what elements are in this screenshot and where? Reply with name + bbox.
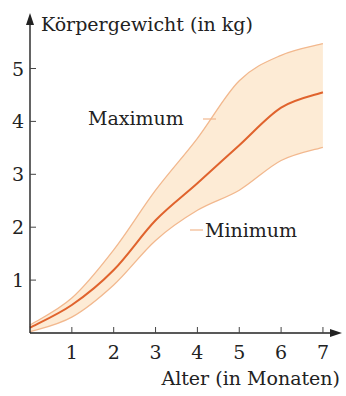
weight-chart: 123456712345 Körpergewicht (in kg) Alter… [0, 0, 346, 396]
range-band [30, 44, 323, 332]
y-tick-label: 5 [12, 58, 24, 80]
x-axis-label: Alter (in Monaten) [160, 367, 340, 389]
y-tick-label: 3 [12, 163, 24, 185]
x-tick-label: 4 [191, 341, 203, 363]
y-axis-arrow-icon [26, 13, 34, 25]
x-tick-label: 2 [108, 341, 120, 363]
x-tick-label: 5 [233, 341, 245, 363]
y-tick-label: 1 [12, 269, 24, 291]
y-axis-label: Körpergewicht (in kg) [41, 13, 253, 35]
band-fill [30, 44, 323, 332]
maximum-annotation: Maximum [88, 107, 184, 129]
x-axis-arrow-icon [330, 329, 342, 337]
x-tick-label: 7 [317, 341, 329, 363]
y-tick-label: 2 [12, 216, 24, 238]
x-tick-label: 6 [275, 341, 287, 363]
x-tick-label: 3 [150, 341, 162, 363]
x-tick-label: 1 [66, 341, 78, 363]
minimum-annotation: Minimum [205, 219, 297, 241]
y-tick-label: 4 [12, 110, 24, 132]
